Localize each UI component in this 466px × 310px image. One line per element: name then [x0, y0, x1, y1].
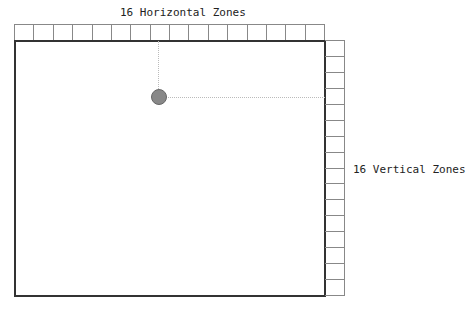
horizontal-zone-cell — [14, 25, 34, 40]
pointer-dot-icon — [151, 89, 167, 105]
horizontal-zone-cell — [189, 25, 208, 40]
horizontal-zone-cell — [151, 25, 170, 40]
vertical-zone-cell — [325, 40, 344, 57]
horizontal-zone-cell — [228, 25, 247, 40]
vertical-zone-cell — [325, 105, 344, 121]
vertical-zone-cell — [325, 216, 344, 232]
vertical-zone-cell — [325, 280, 344, 296]
vertical-zone-cell — [325, 169, 344, 185]
horizontal-zone-cell — [248, 25, 267, 40]
vertical-zone-cell — [325, 232, 344, 248]
horizontal-zone-cell — [93, 25, 112, 40]
vertical-zone-cell — [325, 264, 344, 280]
horizontal-zone-cell — [54, 25, 73, 40]
vertical-zones-strip — [325, 40, 345, 296]
vertical-zone-cell — [325, 73, 344, 89]
vertical-zone-cell — [325, 184, 344, 200]
vertical-guide-line — [158, 41, 159, 89]
vertical-zone-cell — [325, 200, 344, 216]
horizontal-zone-cell — [34, 25, 53, 40]
vertical-zone-cell — [325, 153, 344, 169]
horizontal-zones-strip — [14, 24, 325, 40]
horizontal-guide-line — [168, 97, 325, 98]
vertical-zone-cell — [325, 248, 344, 264]
vertical-zones-label: 16 Vertical Zones — [353, 163, 466, 176]
horizontal-zone-cell — [112, 25, 131, 40]
vertical-zone-cell — [325, 57, 344, 73]
horizontal-zone-cell — [73, 25, 92, 40]
vertical-zone-cell — [325, 137, 344, 153]
horizontal-zone-cell — [131, 25, 150, 40]
horizontal-zones-label: 16 Horizontal Zones — [120, 6, 246, 19]
horizontal-zone-cell — [286, 25, 305, 40]
vertical-zone-cell — [325, 89, 344, 105]
vertical-zone-cell — [325, 121, 344, 137]
horizontal-zone-cell — [306, 25, 325, 40]
horizontal-zone-cell — [209, 25, 228, 40]
horizontal-zone-cell — [267, 25, 286, 40]
screen-area — [14, 40, 326, 297]
horizontal-zone-cell — [170, 25, 189, 40]
